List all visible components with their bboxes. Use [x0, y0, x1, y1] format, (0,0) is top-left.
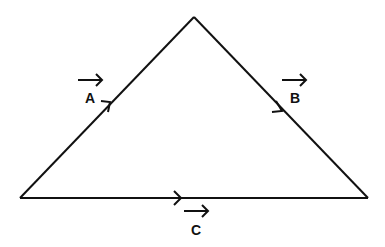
side-a [20, 17, 194, 198]
vector-c-text: C [191, 222, 201, 238]
vector-label-b: B [282, 74, 306, 106]
vector-arrow-icon [78, 74, 102, 86]
vector-label-a: A [78, 74, 102, 106]
vector-triangle-diagram: A B C [0, 0, 385, 247]
vector-b-text: B [290, 90, 300, 106]
vector-arrow-icon [184, 205, 208, 217]
vector-label-c: C [184, 205, 208, 238]
vector-a-text: A [85, 90, 95, 106]
vector-arrow-icon [282, 74, 306, 86]
